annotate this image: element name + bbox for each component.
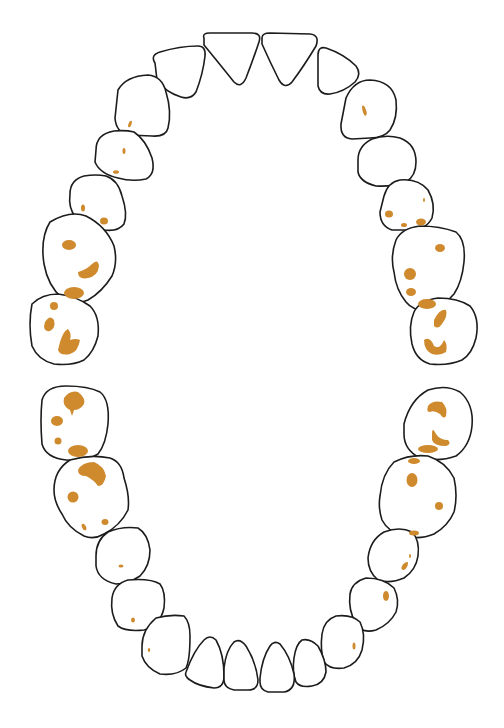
stain-spot (64, 287, 84, 299)
upper-right-molar-2[interactable] (410, 298, 477, 365)
upper-left-canine[interactable] (115, 75, 170, 136)
lower-right-central-incisor[interactable] (260, 642, 294, 692)
upper-right-molar-1[interactable] (392, 226, 464, 310)
stain-spot (418, 445, 438, 453)
stain-spot (119, 565, 124, 568)
stain-spot (385, 211, 393, 218)
stain-spot (409, 531, 419, 536)
stain-spot (131, 618, 135, 623)
stain-spot (435, 502, 443, 510)
stain-spot (401, 223, 407, 227)
stain-spot (81, 205, 85, 212)
stain-spot (102, 519, 109, 525)
stain-spot (406, 288, 416, 296)
stain-spot (51, 416, 63, 426)
lower-right-canine[interactable] (321, 616, 363, 669)
upper-right-central-incisor[interactable] (262, 33, 317, 86)
upper-arch (30, 33, 477, 365)
lower-arch (41, 386, 472, 692)
lower-right-molar-1[interactable] (379, 456, 456, 538)
lower-left-premolar-2[interactable] (96, 528, 150, 585)
stain-spot (68, 492, 79, 503)
stain-spot (50, 302, 58, 310)
upper-right-canine[interactable] (341, 80, 396, 139)
stain-spot (435, 244, 445, 252)
stain-spot (404, 268, 416, 280)
stain-spot (408, 458, 420, 464)
stain-spot (62, 240, 76, 250)
upper-left-premolar-1[interactable] (95, 131, 153, 181)
stain-spot (407, 473, 418, 487)
stain-spot (68, 445, 88, 457)
stain-spot (100, 218, 108, 225)
lower-left-lateral-incisor[interactable] (186, 637, 225, 688)
dental-arch-diagram (0, 0, 504, 728)
lower-left-central-incisor[interactable] (224, 641, 258, 690)
lower-right-molar-2[interactable] (404, 387, 472, 459)
stain-spot (416, 219, 426, 226)
upper-left-central-incisor[interactable] (204, 33, 260, 85)
stain-spot (123, 148, 126, 154)
stain-spot (148, 648, 150, 652)
stain-spot (409, 554, 411, 558)
stain-spot (418, 299, 436, 309)
stain-spot (353, 643, 356, 650)
stain-spot (55, 438, 62, 445)
stain-spot (383, 591, 389, 601)
stain-spot (113, 170, 119, 174)
stain-spot (423, 198, 425, 202)
upper-right-premolar-1[interactable] (358, 136, 416, 186)
lower-left-canine[interactable] (142, 615, 190, 674)
